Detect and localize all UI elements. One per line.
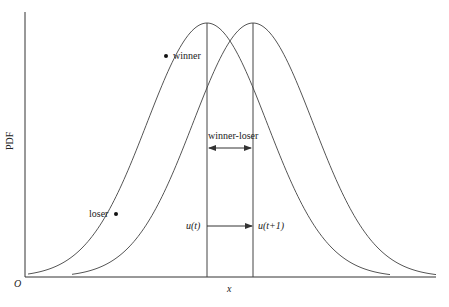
pdf-diagram bbox=[0, 0, 449, 307]
winner-loser-label: winner-loser bbox=[208, 131, 258, 141]
pdf-curve-t-plus-1 bbox=[72, 23, 436, 275]
winner-label: winner bbox=[173, 51, 201, 61]
loser-label: loser bbox=[89, 209, 108, 219]
mean-t-label: u(t) bbox=[186, 221, 200, 231]
origin-label: O bbox=[14, 279, 21, 289]
winner-point bbox=[164, 54, 168, 58]
mean-t-plus-1-label: u(t+1) bbox=[258, 221, 284, 231]
loser-point bbox=[114, 212, 118, 216]
x-axis-label: x bbox=[227, 284, 231, 294]
pdf-curve-t bbox=[28, 23, 390, 275]
y-axis-label: PDF bbox=[4, 132, 15, 150]
